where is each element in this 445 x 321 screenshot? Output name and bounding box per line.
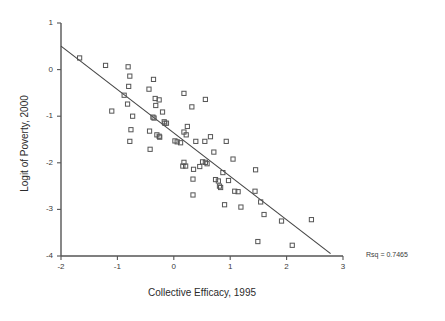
data-point-marker [208, 135, 212, 139]
data-point-marker [309, 218, 313, 222]
x-axis-title: Collective Efficacy, 1995 [61, 287, 343, 298]
x-tick-label: 2 [272, 263, 302, 271]
data-point-marker [129, 128, 133, 132]
data-point-marker [126, 65, 130, 69]
data-point-marker [110, 109, 114, 113]
data-point-marker [128, 139, 132, 143]
data-point-marker [290, 243, 294, 247]
data-point-marker [127, 84, 131, 88]
data-point-marker [151, 77, 155, 81]
rsq-annotation-label: Rsq = 0.7465 [366, 251, 408, 258]
data-point-marker [253, 189, 257, 193]
plot-canvas [0, 0, 445, 321]
data-point-marker [231, 157, 235, 161]
x-tick-label: 1 [215, 263, 245, 271]
data-point-marker [103, 63, 107, 67]
axis-ticks-group [57, 23, 343, 260]
data-point-marker [226, 178, 230, 182]
data-point-marker [203, 97, 207, 101]
data-point-marker [190, 105, 194, 109]
scatter-plot-figure: 10-1-2-3-4-2-10123 Logit of Poverty, 200… [0, 0, 445, 321]
regression-line-group [61, 46, 331, 254]
x-tick-label: 3 [328, 263, 358, 271]
regression-line [61, 46, 331, 254]
data-point-marker [239, 205, 243, 209]
y-tick-label: -2 [27, 159, 53, 167]
x-tick-label: -1 [102, 263, 132, 271]
data-point-marker [191, 193, 195, 197]
data-point-marker [154, 103, 158, 107]
x-tick-label: -2 [46, 263, 76, 271]
data-point-marker [213, 177, 217, 181]
data-point-marker [147, 129, 151, 133]
data-point-marker [198, 164, 202, 168]
data-point-marker [191, 177, 195, 181]
y-tick-label: -1 [27, 112, 53, 120]
data-points-group [78, 56, 314, 248]
y-tick-label: 0 [27, 66, 53, 74]
data-point-marker [191, 167, 195, 171]
data-point-marker [131, 114, 135, 118]
y-tick-label: -4 [27, 252, 53, 260]
data-point-marker [256, 239, 260, 243]
data-point-marker [125, 102, 129, 106]
data-point-marker [182, 91, 186, 95]
data-point-marker [147, 87, 151, 91]
data-point-marker [128, 74, 132, 78]
data-point-marker [203, 139, 207, 143]
data-point-marker [216, 179, 220, 183]
x-tick-label: 0 [159, 263, 189, 271]
y-tick-label: -3 [27, 205, 53, 213]
data-point-marker [160, 110, 164, 114]
data-point-marker [148, 147, 152, 151]
data-point-marker [224, 139, 228, 143]
y-axis-title: Logit of Poverty, 2000 [19, 64, 30, 224]
data-point-marker [262, 212, 266, 216]
data-point-marker [222, 203, 226, 207]
data-point-marker [194, 139, 198, 143]
axes-group [61, 23, 343, 256]
data-point-marker [253, 168, 257, 172]
data-point-marker [279, 219, 283, 223]
y-tick-label: 1 [27, 19, 53, 27]
data-point-marker [185, 124, 189, 128]
data-point-marker [212, 150, 216, 154]
